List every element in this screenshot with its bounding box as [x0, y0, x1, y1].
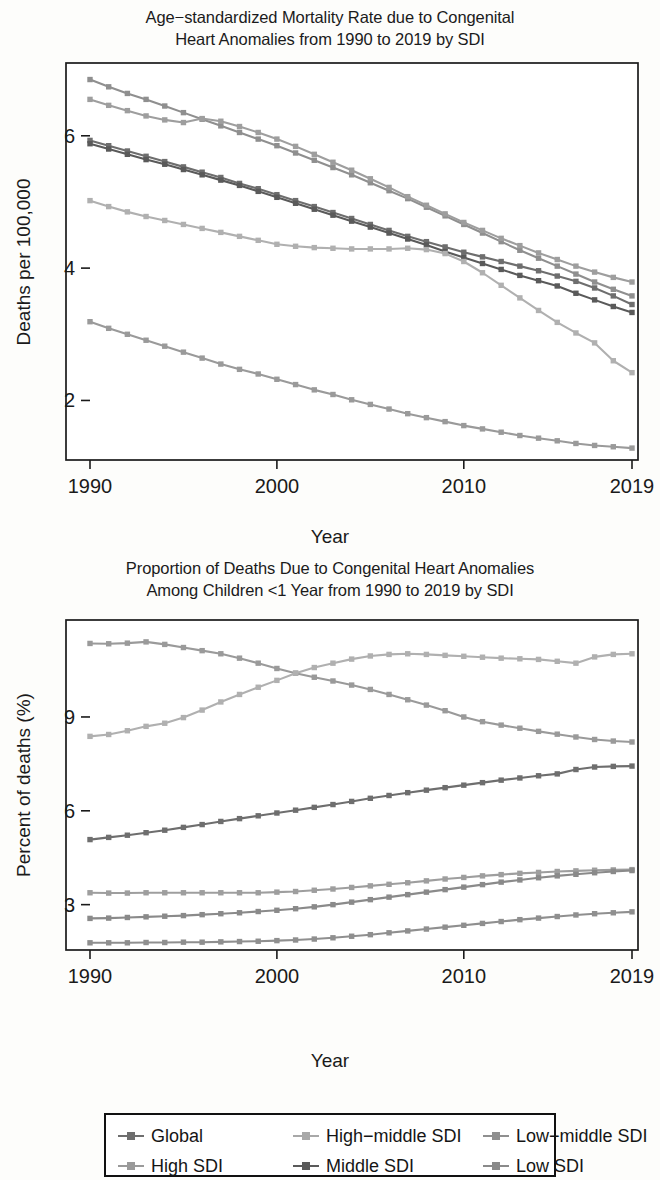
legend-item-high-sdi[interactable]: High SDI — [118, 1156, 293, 1177]
data-point — [405, 790, 410, 795]
data-point — [143, 724, 148, 729]
data-point — [125, 640, 130, 645]
legend-marker-icon — [293, 1130, 319, 1142]
data-point — [442, 211, 447, 216]
data-point — [517, 726, 522, 731]
data-point — [498, 919, 503, 924]
data-point — [368, 883, 373, 888]
data-point — [237, 890, 242, 895]
data-point — [480, 270, 485, 275]
data-point — [143, 639, 148, 644]
data-point — [199, 822, 204, 827]
data-point — [498, 722, 503, 727]
data-point — [181, 939, 186, 944]
data-point — [125, 833, 130, 838]
x-tick-label: 2000 — [255, 965, 300, 987]
data-point — [125, 108, 130, 113]
data-point — [125, 91, 130, 96]
data-point — [274, 678, 279, 683]
data-point — [125, 890, 130, 895]
data-point — [87, 141, 92, 146]
data-point — [611, 304, 616, 309]
data-point — [349, 218, 354, 223]
data-point — [573, 263, 578, 268]
data-point — [237, 183, 242, 188]
data-point — [573, 660, 578, 665]
data-point — [461, 884, 466, 889]
data-point — [461, 220, 466, 225]
data-point — [424, 926, 429, 931]
data-point — [218, 819, 223, 824]
data-point — [162, 890, 167, 895]
data-point — [199, 648, 204, 653]
data-point — [274, 136, 279, 141]
data-point — [480, 655, 485, 660]
data-point — [629, 651, 634, 656]
data-point — [181, 913, 186, 918]
data-point — [555, 320, 560, 325]
data-point — [386, 652, 391, 657]
data-point — [256, 909, 261, 914]
legend-item-low-sdi[interactable]: Low SDI — [483, 1156, 658, 1177]
data-point — [592, 911, 597, 916]
data-point — [442, 924, 447, 929]
data-point — [368, 246, 373, 251]
y-tick-label: 2 — [64, 389, 75, 411]
data-point — [312, 904, 317, 909]
data-point — [498, 655, 503, 660]
legend-item-global[interactable]: Global — [118, 1126, 293, 1147]
chart-title-proportion-line1: Proportion of Deaths Due to Congenital H… — [0, 557, 660, 579]
legend-item-middle-sdi[interactable]: Middle SDI — [293, 1156, 483, 1177]
data-point — [517, 877, 522, 882]
data-point — [442, 708, 447, 713]
data-point — [517, 248, 522, 253]
data-point — [256, 890, 261, 895]
data-point — [536, 250, 541, 255]
data-point — [256, 130, 261, 135]
legend-item-low-middle-sdi[interactable]: Low−middle SDI — [483, 1126, 658, 1147]
data-point — [555, 731, 560, 736]
data-point — [293, 244, 298, 249]
data-point — [442, 244, 447, 249]
data-point — [256, 136, 261, 141]
data-point — [274, 377, 279, 382]
data-point — [480, 882, 485, 887]
data-point — [629, 279, 634, 284]
data-point — [87, 198, 92, 203]
data-point — [106, 204, 111, 209]
legend-marker-icon — [118, 1160, 144, 1172]
data-point — [498, 259, 503, 264]
data-point — [461, 923, 466, 928]
legend-item-high-middle-sdi[interactable]: High−middle SDI — [293, 1126, 483, 1147]
data-point — [237, 692, 242, 697]
data-point — [517, 871, 522, 876]
data-point — [517, 263, 522, 268]
x-tick-label: 2019 — [610, 965, 655, 987]
data-point — [629, 763, 634, 768]
data-point — [536, 915, 541, 920]
data-point — [125, 728, 130, 733]
data-point — [536, 435, 541, 440]
data-point — [237, 910, 242, 915]
data-point — [424, 878, 429, 883]
data-point — [611, 275, 616, 280]
y-tick-label: 3 — [64, 894, 75, 916]
x-tick-label: 2010 — [442, 965, 487, 987]
data-point — [629, 868, 634, 873]
y-tick-label: 9 — [64, 706, 75, 728]
data-point — [87, 940, 92, 945]
data-point — [386, 882, 391, 887]
data-point — [517, 656, 522, 661]
data-point — [274, 143, 279, 148]
legend-item-label: Middle SDI — [326, 1156, 414, 1177]
data-point — [442, 887, 447, 892]
data-point — [162, 940, 167, 945]
data-point — [592, 764, 597, 769]
data-point — [143, 113, 148, 118]
data-point — [536, 870, 541, 875]
data-point — [349, 934, 354, 939]
data-point — [386, 692, 391, 697]
legend-grid: GlobalHigh−middle SDILow−middle SDIHigh … — [106, 1115, 554, 1180]
data-point — [517, 433, 522, 438]
chart-title-proportion: Proportion of Deaths Due to Congenital H… — [0, 557, 660, 601]
